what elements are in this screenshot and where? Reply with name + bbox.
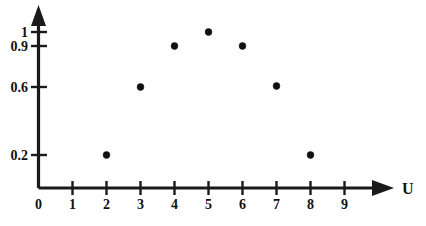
x-tick-label-9: 9: [341, 197, 348, 212]
data-point: [103, 152, 110, 159]
data-point: [137, 84, 144, 91]
x-tick-label-0: 0: [35, 197, 42, 212]
x-axis-arrow-icon: [372, 180, 394, 196]
data-point: [205, 29, 212, 36]
data-point: [171, 43, 178, 50]
data-point: [307, 152, 314, 159]
x-tick-label-7: 7: [273, 197, 280, 212]
data-point: [239, 43, 246, 50]
y-tick-label-02: 0.2: [11, 148, 29, 163]
x-tick-label-4: 4: [171, 197, 178, 212]
data-point: [273, 83, 280, 90]
y-tick-label-06: 0.6: [11, 80, 29, 95]
x-tick-label-3: 3: [137, 197, 144, 212]
x-tick-label-2: 2: [103, 197, 110, 212]
x-tick-label-5: 5: [205, 197, 212, 212]
scatter-plot-figure: 1 0.9 0.6 0.2 0 1 2 3 4 5 6 7 8: [0, 0, 426, 226]
plot-canvas: 1 0.9 0.6 0.2 0 1 2 3 4 5 6 7 8: [0, 0, 426, 226]
y-axis-tick-labels: 1 0.9 0.6 0.2: [11, 25, 29, 163]
x-tick-label-1: 1: [69, 197, 76, 212]
y-axis-arrow-icon: [31, 5, 46, 26]
x-tick-label-6: 6: [239, 197, 246, 212]
x-axis-tick-labels: 0 1 2 3 4 5 6 7 8 9: [35, 197, 348, 212]
y-tick-label-09: 0.9: [11, 39, 29, 54]
x-tick-label-8: 8: [307, 197, 314, 212]
x-axis-label: U: [402, 180, 414, 197]
y-tick-label-1: 1: [21, 25, 28, 40]
data-points-group: [103, 29, 314, 159]
